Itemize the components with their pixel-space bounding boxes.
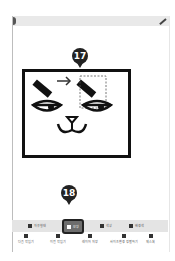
next-icon [24,234,28,238]
tool-freeform[interactable]: 자유형태 [28,222,46,230]
tool-shape[interactable]: 모양 [62,219,84,234]
save-icon [88,234,92,238]
nav-resize[interactable]: 사이즈변경 정렬하기 [110,234,138,244]
tool-row: 자유형태 모양 색상 배경색 [12,220,168,232]
freeform-icon [28,224,32,228]
nav-save[interactable]: 레이어 저장 [82,234,98,244]
tool-color[interactable]: 색상 [100,222,112,230]
gesture-icon [149,234,153,238]
background-icon [129,224,133,228]
nav-gesture[interactable]: 제스처 [146,234,155,244]
nav-previous[interactable]: 이전 작업기 [50,234,66,244]
shape-icon [67,225,71,229]
color-icon [100,224,104,228]
resize-icon [122,234,126,238]
bottom-nav: 다음 작업기 이전 작업기 레이어 저장 사이즈변경 정렬하기 제스처 [12,234,168,248]
nav-next[interactable]: 다음 작업기 [18,234,34,244]
tool-background[interactable]: 배경색 [129,222,144,230]
previous-icon [56,234,60,238]
